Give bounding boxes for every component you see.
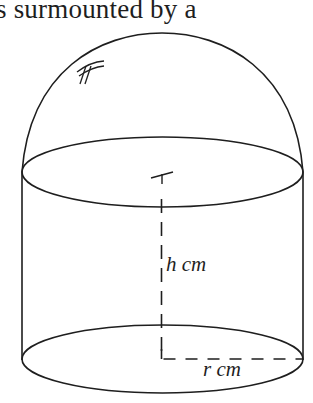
- radius-label: r cm: [203, 357, 241, 381]
- center-tick-icon: [151, 172, 173, 184]
- cylinder-hemisphere-diagram: h cm r cm: [0, 0, 313, 403]
- hemisphere-hatch-icon: [77, 61, 104, 84]
- height-label: h cm: [166, 252, 206, 276]
- hemisphere-arc: [22, 33, 303, 172]
- top-circle: [22, 137, 303, 207]
